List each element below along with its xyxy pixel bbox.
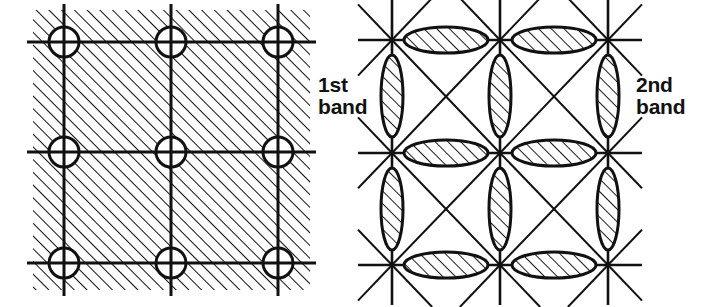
lens-vertical	[381, 55, 403, 137]
first-band-label-line1: 1st	[318, 73, 348, 96]
lens-vertical	[381, 168, 403, 250]
second-band-label-line2: band	[636, 95, 685, 118]
brillouin-zone-figure: 1st band 2nd band	[0, 0, 728, 307]
first-band-label-line2: band	[318, 95, 367, 118]
lens-horizontal	[512, 140, 596, 166]
lens-horizontal	[404, 252, 488, 278]
first-band-label: 1st band	[318, 73, 367, 118]
panel-first-band	[27, 4, 316, 296]
panel-second-band	[358, 0, 642, 307]
lens-horizontal	[404, 27, 488, 53]
lens-vertical	[489, 55, 511, 137]
second-band-grid-lines	[358, 0, 642, 305]
lens-vertical	[597, 168, 619, 250]
second-band-label: 2nd band	[636, 73, 685, 118]
lens-horizontal	[512, 27, 596, 53]
second-band-label-line1: 2nd	[636, 73, 673, 96]
lens-vertical	[597, 55, 619, 137]
lens-horizontal	[404, 140, 488, 166]
lens-horizontal	[512, 252, 596, 278]
lens-vertical	[489, 168, 511, 250]
figure-canvas: 1st band 2nd band	[0, 0, 728, 307]
